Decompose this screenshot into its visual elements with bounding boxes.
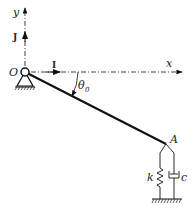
spring-label: k bbox=[147, 171, 154, 184]
angle-subscript: 0 bbox=[85, 86, 90, 94]
point-a-label: A bbox=[169, 133, 178, 146]
damper-label: c bbox=[181, 171, 187, 184]
angle-label: θ bbox=[78, 79, 85, 92]
x-axis-label: x bbox=[166, 57, 173, 70]
ground-icon bbox=[152, 199, 182, 203]
mechanism-diagram: y J O I x θ 0 A k c bbox=[0, 0, 194, 216]
spring-icon bbox=[157, 168, 163, 199]
j-vector-label: J bbox=[12, 32, 17, 42]
i-vector-label: I bbox=[52, 60, 56, 70]
y-axis-label: y bbox=[12, 6, 20, 19]
origin-label: O bbox=[9, 66, 18, 79]
damper-icon bbox=[169, 171, 179, 199]
rigid-bar bbox=[25, 72, 166, 144]
